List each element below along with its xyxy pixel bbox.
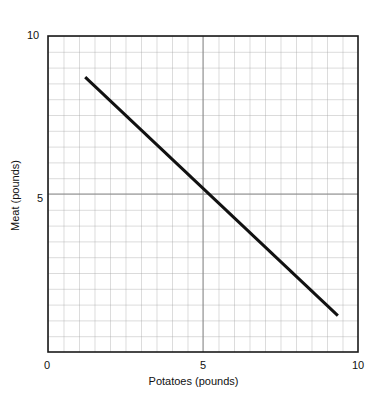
x-axis-tick-10: 10 bbox=[352, 360, 364, 371]
x-axis-tick-0: 0 bbox=[44, 360, 50, 371]
y-axis-tick-5: 5 bbox=[37, 193, 43, 204]
y-axis-title: Meat (pounds) bbox=[10, 160, 21, 231]
chart-figure: 10 5 0 5 10 Potatoes (pounds) Meat (poun… bbox=[0, 0, 387, 412]
x-axis-title: Potatoes (pounds) bbox=[0, 376, 387, 387]
plot-canvas bbox=[0, 0, 387, 412]
y-axis-title-container: Meat (pounds) bbox=[0, 0, 30, 390]
x-axis-tick-5: 5 bbox=[200, 360, 206, 371]
